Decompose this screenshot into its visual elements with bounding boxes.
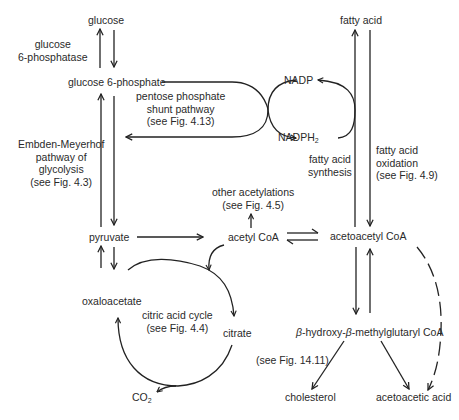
annotation-citric-acid-cycle: citric acid cycle (see Fig. 4.4) — [142, 309, 213, 334]
annotation-line: (see Fig. 4.3) — [18, 176, 104, 189]
node-cholesterol: cholesterol — [285, 391, 336, 404]
annotation-line: (see Fig. 4.5) — [212, 199, 294, 212]
node-fatty-acid: fatty acid — [340, 14, 382, 27]
annotation-line: fatty acid — [376, 144, 438, 157]
hmg-text-1: -hydroxy- — [302, 326, 346, 338]
node-glucose-6-phosphate: glucose 6-phosphate — [68, 76, 166, 89]
node-hmg-coa: β-hydroxy-β-methylglutaryl CoA — [296, 326, 443, 339]
annotation-line: other acetylations — [212, 186, 294, 199]
arrow-nadph2-to-nadp — [318, 80, 355, 138]
annotation-pentose-shunt: pentose phosphate shunt pathway (see Fig… — [136, 90, 225, 128]
annotation-line: (see Fig. 4.13) — [136, 115, 225, 128]
node-glucose: glucose — [88, 14, 124, 27]
node-acetyl-coa: acetyl CoA — [228, 231, 279, 244]
annotation-fa-oxidation: fatty acid oxidation (see Fig. 4.9) — [376, 144, 438, 182]
nadph-subscript: 2 — [315, 137, 319, 144]
annotation-line: citric acid cycle — [142, 309, 213, 322]
annotation-cholesterol-ref: (see Fig. 14.11) — [256, 354, 329, 367]
annotation-line: pentose phosphate — [136, 90, 225, 103]
dashed-arrow-acetoacetyl-to-acetoacetic — [417, 247, 441, 390]
annotation-line: synthesis — [308, 166, 352, 179]
annotation-line: pathway of — [18, 151, 104, 164]
node-acetoacetyl-coa: acetoacetyl CoA — [330, 230, 406, 243]
node-nadph2: NADPH2 — [278, 131, 319, 148]
annotation-line: (see Fig. 4.9) — [376, 169, 438, 182]
arrow-to-co2 — [157, 386, 176, 392]
annotation-line: oxidation — [376, 157, 438, 170]
annotation-line: 6-phosphatase — [18, 51, 87, 64]
node-pyruvate: pyruvate — [89, 231, 129, 244]
arrow-acetylcoa-into-cycle — [209, 245, 224, 270]
arrow-hmg-to-acetoacetic — [381, 341, 409, 389]
nadph-text: NADPH — [278, 131, 315, 143]
hmg-text-2: -methylglutaryl CoA — [352, 326, 444, 338]
node-acetoacetic-acid: acetoacetic acid — [376, 391, 451, 404]
node-nadp: NADP — [284, 74, 313, 87]
annotation-line: glucose — [18, 38, 87, 51]
cycle-oxaloacetate-to-citrate — [128, 259, 234, 316]
annotation-glycolysis: Embden-Meyerhof pathway of glycolysis (s… — [18, 138, 104, 188]
annotation-line: fatty acid — [308, 153, 352, 166]
node-citrate: citrate — [223, 327, 252, 340]
annotation-line: (see Fig. 4.4) — [142, 322, 213, 335]
annotation-line: Embden-Meyerhof — [18, 138, 104, 151]
node-oxaloacetate: oxaloacetate — [82, 295, 142, 308]
annotation-other-acetylations: other acetylations (see Fig. 4.5) — [212, 186, 294, 211]
annotation-line: glycolysis — [18, 163, 104, 176]
annotation-fa-synthesis: fatty acid synthesis — [308, 153, 352, 178]
annotation-line: shunt pathway — [136, 103, 225, 116]
co2-subscript: 2 — [148, 397, 152, 404]
co2-text: CO — [132, 391, 148, 403]
metabolic-pathway-diagram: glucose glucose 6-phosphate pyruvate ace… — [0, 0, 459, 420]
annotation-glucose-6-phosphatase: glucose 6-phosphatase — [18, 38, 87, 63]
node-co2: CO2 — [132, 391, 152, 408]
